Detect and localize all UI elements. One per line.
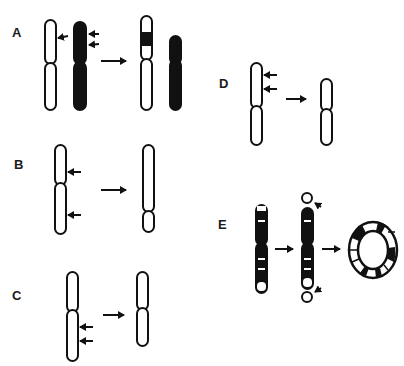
breakpoint-arrow-icon <box>315 288 321 292</box>
chromosome-normal-light <box>45 20 56 110</box>
chromosome-normal-dark <box>74 22 86 110</box>
breakpoint-arrow-icon <box>315 203 321 207</box>
panel-a <box>45 16 181 110</box>
chromosome-rearranged <box>143 145 154 232</box>
breakpoint-arrow-icon <box>58 36 68 38</box>
chromosome-deleted <box>137 272 148 346</box>
chromosome-normal <box>251 63 262 145</box>
chromosome-banded <box>256 205 267 293</box>
chromosome-deleted <box>321 79 332 145</box>
chromosome-banded-broken <box>302 193 313 302</box>
panel-b <box>55 145 154 234</box>
diagram-canvas <box>0 0 404 366</box>
panel-d <box>251 63 332 145</box>
breakpoint-arrow-icon <box>89 44 99 45</box>
panel-e <box>256 193 397 302</box>
panel-c <box>67 272 148 361</box>
chromosome-normal <box>55 145 66 234</box>
ring-chromosome <box>349 222 397 278</box>
chromosome-normal <box>67 272 78 361</box>
chromosome-derivative-light <box>141 16 152 110</box>
chromosome-derivative-dark <box>170 36 181 110</box>
